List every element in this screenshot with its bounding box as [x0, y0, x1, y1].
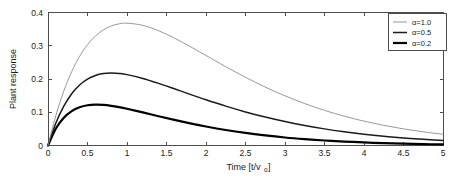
x-tick-label: 1.5	[161, 148, 173, 158]
legend-label[interactable]: α=1.0	[412, 18, 431, 27]
plot-canvas: 00.511.522.533.544.5500.10.20.30.4 Time …	[0, 0, 467, 182]
x-tick-label: 0.5	[82, 148, 94, 158]
x-tick-label: 2.5	[240, 148, 252, 158]
y-tick-label: 0.2	[31, 74, 43, 84]
x-axis-title: Time [t/v	[226, 162, 261, 172]
x-tick-label: 5	[441, 148, 446, 158]
chart-figure: 00.511.522.533.544.5500.10.20.30.4 Time …	[0, 0, 467, 182]
y-tick-label: 0	[38, 141, 43, 151]
y-tick-label: 0.1	[31, 107, 43, 117]
x-tick-label: 0	[46, 148, 51, 158]
legend-label[interactable]: α=0.5	[412, 28, 431, 37]
y-axis-title: Plant response	[8, 49, 18, 109]
data-curves	[48, 23, 443, 145]
x-tick-label: 3	[283, 148, 288, 158]
y-tick-label: 0.4	[31, 8, 43, 18]
x-tick-label: 3.5	[319, 148, 331, 158]
data-curve	[48, 73, 443, 145]
data-curve	[48, 23, 443, 145]
x-tick-label: 2	[204, 148, 209, 158]
x-tick-label: 4	[362, 148, 367, 158]
x-tick-label: 1	[125, 148, 130, 158]
x-axis-title-tail: ]	[268, 162, 271, 172]
y-tick-label: 0.3	[31, 41, 43, 51]
chart-legend[interactable]: α=1.0α=0.5α=0.2	[388, 13, 446, 50]
legend-label[interactable]: α=0.2	[412, 39, 431, 48]
x-tick-label: 4.5	[398, 148, 410, 158]
